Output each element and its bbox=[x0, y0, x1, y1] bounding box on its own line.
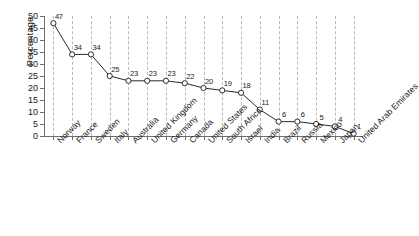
data-point-label: 18 bbox=[243, 81, 251, 90]
y-tick-label: 0 bbox=[33, 131, 38, 141]
data-point-marker bbox=[107, 73, 112, 78]
data-point-marker bbox=[220, 88, 225, 93]
data-point-label: 23 bbox=[167, 69, 175, 78]
series-line bbox=[44, 16, 363, 136]
data-point-label: 22 bbox=[186, 72, 194, 81]
data-point-label: 34 bbox=[92, 43, 100, 52]
data-point-label: 20 bbox=[205, 77, 213, 86]
data-point-label: 23 bbox=[149, 69, 157, 78]
y-tick-label: 50 bbox=[28, 11, 38, 21]
plot-area: 05101520253035404550 4734342523232322201… bbox=[44, 16, 363, 136]
data-point-marker bbox=[145, 78, 150, 83]
y-tick-label: 25 bbox=[28, 71, 38, 81]
data-point-marker bbox=[88, 52, 93, 57]
data-point-marker bbox=[276, 119, 281, 124]
data-point-marker bbox=[238, 90, 243, 95]
x-label-text: United Arab Emirates bbox=[356, 81, 419, 145]
y-tick-label: 45 bbox=[28, 23, 38, 33]
y-tick-label: 15 bbox=[28, 95, 38, 105]
data-point-label: 19 bbox=[224, 79, 232, 88]
data-point-label: 34 bbox=[74, 43, 82, 52]
data-point-label: 11 bbox=[262, 98, 269, 107]
y-tick-label: 30 bbox=[28, 59, 38, 69]
data-point-marker bbox=[182, 81, 187, 86]
data-point-marker bbox=[51, 21, 56, 26]
data-point-marker bbox=[126, 78, 131, 83]
data-point-label: 6 bbox=[282, 110, 286, 119]
data-point-label: 47 bbox=[55, 12, 63, 21]
x-axis-label: United Arab Emirates bbox=[356, 81, 419, 145]
series-polyline bbox=[53, 23, 353, 133]
y-tick-label: 20 bbox=[28, 83, 38, 93]
y-tick-label: 35 bbox=[28, 47, 38, 57]
y-tick-label: 10 bbox=[28, 107, 38, 117]
data-point-marker bbox=[163, 78, 168, 83]
y-tick-label: 40 bbox=[28, 35, 38, 45]
x-axis-category-labels: NorwayFranceSwedenItalyAustraliaUnited K… bbox=[44, 136, 363, 236]
data-point-marker bbox=[70, 52, 75, 57]
data-point-marker bbox=[201, 85, 206, 90]
data-point-label: 5 bbox=[320, 113, 324, 122]
y-tick-label: 5 bbox=[33, 119, 38, 129]
data-point-label: 25 bbox=[111, 65, 119, 74]
data-point-label: 6 bbox=[301, 110, 305, 119]
data-point-label: 23 bbox=[130, 69, 138, 78]
